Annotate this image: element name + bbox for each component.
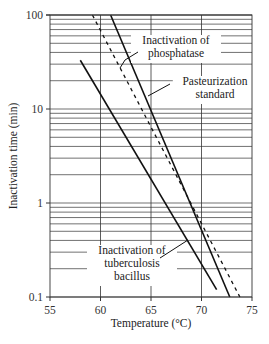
chart: Inactivation ofphosphatasePasteurization… (0, 0, 269, 344)
x-tick-label: 55 (44, 304, 56, 316)
y-tick-label: 0.1 (29, 291, 44, 303)
y-tick-label: 10 (32, 103, 44, 115)
x-tick-label: 75 (246, 304, 258, 316)
annotation-text: tuberculosis (104, 257, 160, 269)
annotation-text: Pasteurization (182, 75, 247, 87)
annotation-text: Inactivation of (98, 244, 166, 256)
y-tick-label: 1 (37, 197, 43, 209)
annotation-text: standard (196, 88, 235, 100)
annotation-tuberculosis: Inactivation oftuberculosisbacillus (87, 244, 177, 286)
annotation-text: Inactivation of (142, 34, 210, 46)
annotation-text: phosphatase (148, 47, 204, 60)
y-tick-label: 100 (26, 9, 44, 21)
annotation-text: bacillus (114, 270, 150, 282)
y-axis-label: Inactivation time (min) (7, 103, 20, 210)
annotation-pasteurization: Pasteurizationstandard (173, 75, 257, 104)
x-tick-label: 60 (95, 304, 107, 316)
x-tick-label: 70 (196, 304, 208, 316)
x-axis-label: Temperature (°C) (111, 317, 192, 330)
annotation-phosphatase: Inactivation ofphosphatase (131, 34, 221, 63)
x-tick-label: 65 (145, 304, 157, 316)
